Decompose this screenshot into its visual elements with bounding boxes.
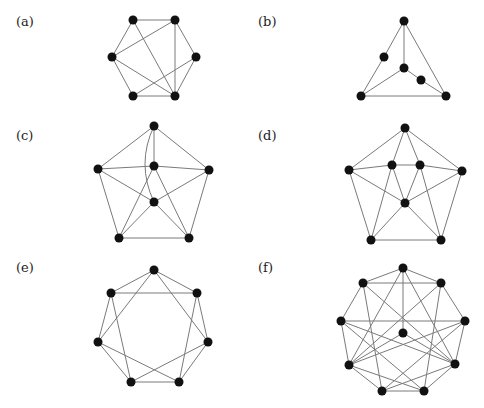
edge: [175, 20, 196, 57]
vertex: [401, 199, 410, 208]
edge: [349, 333, 403, 365]
edge: [175, 57, 196, 96]
vertex: [115, 234, 124, 243]
vertex: [401, 124, 410, 133]
vertex: [108, 53, 117, 62]
vertex: [345, 361, 354, 370]
edge: [424, 364, 455, 391]
edge: [341, 321, 349, 365]
vertex: [193, 289, 202, 298]
vertex: [185, 234, 194, 243]
vertex: [345, 166, 354, 175]
vertex: [378, 387, 387, 396]
vertex: [437, 279, 446, 288]
vertex: [399, 329, 408, 338]
edge: [98, 293, 111, 342]
vertex: [150, 266, 159, 275]
edge: [133, 57, 196, 96]
vertex: [205, 166, 214, 175]
edge: [361, 68, 404, 96]
edge: [392, 165, 405, 203]
vertex: [129, 92, 138, 101]
vertex: [171, 92, 180, 101]
edge: [403, 268, 441, 283]
vertex: [127, 378, 136, 387]
vertex: [420, 387, 429, 396]
edge: [119, 202, 154, 238]
edge: [363, 283, 382, 391]
vertex: [461, 317, 470, 326]
edge: [405, 165, 420, 203]
vertex: [150, 162, 159, 171]
edge: [131, 342, 208, 382]
vertex: [458, 167, 467, 176]
vertex: [94, 338, 103, 347]
vertex: [416, 161, 425, 170]
edge: [341, 283, 363, 321]
vertex: [192, 53, 201, 62]
vertex: [175, 378, 184, 387]
vertex: [359, 279, 368, 288]
vertex: [417, 76, 426, 85]
edge: [154, 166, 209, 170]
graph-a: [108, 16, 201, 101]
edge: [119, 166, 154, 238]
edge: [361, 57, 384, 96]
edge: [112, 57, 133, 96]
edge: [363, 283, 455, 364]
edge: [154, 202, 189, 238]
graph-canvas: [0, 0, 484, 408]
edge: [441, 283, 465, 321]
edge: [98, 126, 154, 169]
graph-c: [94, 122, 214, 243]
edge: [112, 20, 175, 57]
vertex: [451, 360, 460, 369]
edge: [98, 342, 179, 382]
edge: [111, 293, 131, 382]
edge: [154, 270, 197, 293]
edge: [111, 270, 154, 293]
vertex: [204, 338, 213, 347]
graph-d: [345, 124, 467, 245]
edge: [98, 270, 154, 342]
vertex: [400, 64, 409, 73]
vertex: [399, 264, 408, 273]
edge: [392, 128, 405, 165]
graph-b: [357, 17, 451, 101]
edge: [112, 20, 133, 57]
edge: [154, 166, 189, 238]
vertex: [357, 92, 366, 101]
edge: [112, 57, 175, 96]
vertex: [437, 236, 446, 245]
vertex: [388, 161, 397, 170]
edge: [455, 321, 465, 364]
vertex: [380, 53, 389, 62]
graph-f: [337, 264, 470, 396]
edge: [349, 365, 382, 391]
vertex: [400, 17, 409, 26]
edge: [363, 268, 403, 283]
edge: [349, 128, 405, 170]
vertex: [94, 165, 103, 174]
vertex: [367, 236, 376, 245]
vertex: [442, 92, 451, 101]
vertex: [150, 198, 159, 207]
vertex: [337, 317, 346, 326]
graph-e: [94, 266, 213, 387]
edge: [403, 268, 455, 364]
vertex: [107, 289, 116, 298]
vertex: [171, 16, 180, 25]
edge: [404, 21, 446, 96]
vertex: [150, 122, 159, 131]
edge: [384, 21, 404, 57]
edge: [133, 20, 175, 96]
vertex: [129, 16, 138, 25]
edge: [154, 126, 209, 170]
